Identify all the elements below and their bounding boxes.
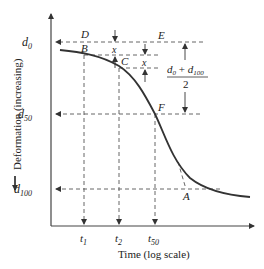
x-axis-label: Time (log scale) <box>118 248 190 261</box>
point-c: C <box>121 55 129 67</box>
point-f: F <box>157 101 165 113</box>
svg-text:d0 + d100: d0 + d100 <box>167 63 204 77</box>
x-tick-t1: t1 <box>80 232 87 247</box>
point-e: E <box>157 29 165 41</box>
midpoint-formula: d0 + d100 2 <box>167 63 208 90</box>
y-tick-d100: d100 <box>14 182 32 198</box>
svg-text:2: 2 <box>183 78 189 90</box>
x-tick-t50: t50 <box>148 232 159 247</box>
offset-x-2: x <box>141 57 147 68</box>
x-tick-t2: t2 <box>115 232 122 247</box>
y-axis-label-group: Deformation (increasing) <box>11 58 24 170</box>
y-tick-d0: d0 <box>22 35 32 51</box>
y-axis-label: Deformation (increasing) <box>11 58 24 170</box>
point-d: D <box>80 28 89 40</box>
offset-x-1: x <box>111 44 117 55</box>
point-b: B <box>81 42 88 54</box>
consolidation-diagram: d0 d50 d100 t1 t2 t50 Time (log scale) D… <box>0 0 264 269</box>
point-a: A <box>182 190 190 202</box>
